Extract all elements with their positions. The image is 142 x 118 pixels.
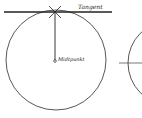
second-circle-figure [119,21,142,105]
main-circle-figure: Tangent Midtpunkt [4,3,112,110]
tangent-label: Tangent [78,3,103,11]
center-label: Midtpunkt [57,56,86,63]
center-point [54,60,57,63]
tangent-diagram: Tangent Midtpunkt [0,0,142,118]
